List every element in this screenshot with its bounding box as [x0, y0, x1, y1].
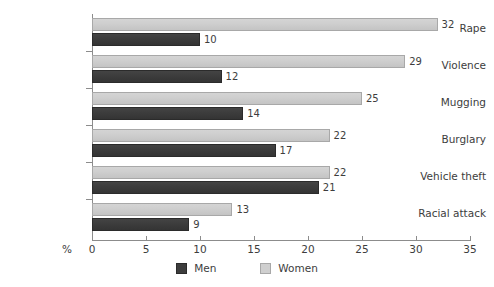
x-tick-0 [92, 236, 93, 241]
bar-value-men-vehicle-theft: 21 [323, 181, 336, 194]
bar-women-racial-attack [92, 203, 232, 216]
x-tick-20 [308, 236, 309, 241]
bar-women-vehicle-theft [92, 166, 330, 179]
bar-chart: Rape Violence Mugging Burglary Vehicle t… [0, 0, 494, 287]
bar-group-violence: 29 12 [92, 53, 470, 90]
legend-label-men: Men [194, 262, 216, 274]
x-tick-label-10: 10 [185, 243, 215, 256]
x-axis-unit-label: % [62, 243, 72, 256]
bar-value-women-vehicle-theft: 22 [334, 166, 347, 179]
plot-area: 32 10 29 12 25 14 22 17 22 21 [92, 16, 470, 238]
x-axis-line [92, 240, 471, 241]
bar-value-women-burglary: 22 [334, 129, 347, 142]
bar-value-women-rape: 32 [442, 18, 455, 31]
x-tick-5 [146, 236, 147, 241]
legend-label-women: Women [278, 262, 318, 274]
bar-women-burglary [92, 129, 330, 142]
bar-value-women-violence: 29 [409, 55, 422, 68]
legend-swatch-men-icon [176, 263, 187, 274]
bar-men-racial-attack [92, 218, 189, 231]
bar-group-burglary: 22 17 [92, 127, 470, 164]
x-tick-label-0: 0 [77, 243, 107, 256]
bar-value-men-burglary: 17 [280, 144, 293, 157]
bar-group-rape: 32 10 [92, 16, 470, 53]
bar-value-men-mugging: 14 [247, 107, 260, 120]
chart-legend: Men Women [0, 262, 494, 274]
legend-swatch-women-icon [260, 263, 271, 274]
bar-group-racial-attack: 13 9 [92, 201, 470, 238]
bar-women-rape [92, 18, 438, 31]
bar-value-men-violence: 12 [226, 70, 239, 83]
bar-women-violence [92, 55, 405, 68]
x-tick-35 [470, 236, 471, 241]
x-tick-label-20: 20 [293, 243, 323, 256]
x-tick-label-35: 35 [455, 243, 485, 256]
bar-men-burglary [92, 144, 276, 157]
x-tick-30 [416, 236, 417, 241]
bar-value-women-mugging: 25 [366, 92, 379, 105]
x-tick-10 [200, 236, 201, 241]
bar-men-violence [92, 70, 222, 83]
legend-item-women: Women [260, 262, 318, 274]
legend-item-men: Men [176, 262, 216, 274]
x-tick-label-25: 25 [347, 243, 377, 256]
x-tick-label-5: 5 [131, 243, 161, 256]
x-tick-label-15: 15 [239, 243, 269, 256]
bar-men-vehicle-theft [92, 181, 319, 194]
bar-value-women-racial-attack: 13 [236, 203, 249, 216]
bar-men-rape [92, 33, 200, 46]
bar-women-mugging [92, 92, 362, 105]
bar-group-mugging: 25 14 [92, 90, 470, 127]
bar-men-mugging [92, 107, 243, 120]
bar-value-men-racial-attack: 9 [193, 218, 199, 231]
bar-value-men-rape: 10 [204, 33, 217, 46]
bar-group-vehicle-theft: 22 21 [92, 164, 470, 201]
x-tick-25 [362, 236, 363, 241]
x-tick-15 [254, 236, 255, 241]
x-tick-label-30: 30 [401, 243, 431, 256]
